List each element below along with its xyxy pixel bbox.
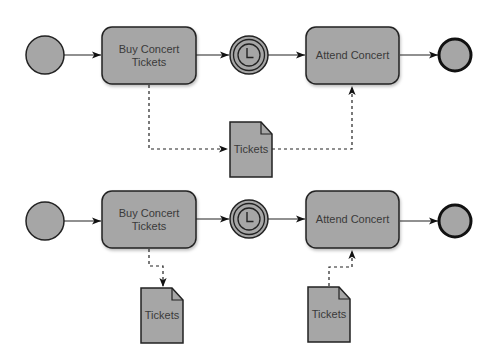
data-object-tickets-output[interactable] bbox=[141, 288, 183, 343]
start-event[interactable] bbox=[26, 202, 64, 240]
data-association-output bbox=[149, 85, 228, 149]
row-2 bbox=[26, 191, 471, 343]
data-association-input bbox=[329, 250, 352, 286]
task-buy-concert-tickets[interactable] bbox=[102, 191, 196, 248]
timer-intermediate-event[interactable] bbox=[230, 36, 268, 74]
end-event[interactable] bbox=[439, 39, 471, 71]
bpmn-diagram bbox=[0, 0, 496, 361]
data-object-tickets[interactable] bbox=[230, 122, 272, 177]
start-event[interactable] bbox=[26, 36, 64, 74]
data-association-output bbox=[149, 249, 163, 287]
task-attend-concert[interactable] bbox=[306, 27, 399, 84]
task-buy-concert-tickets[interactable] bbox=[102, 27, 196, 84]
data-association-input bbox=[272, 86, 352, 149]
row-1 bbox=[26, 27, 471, 177]
task-attend-concert[interactable] bbox=[306, 191, 399, 248]
timer-intermediate-event[interactable] bbox=[230, 200, 268, 238]
end-event[interactable] bbox=[439, 205, 471, 237]
data-object-tickets-input[interactable] bbox=[308, 287, 350, 342]
bpmn-diagram-canvas: Buy Concert Tickets Attend Concert Ticke… bbox=[0, 0, 496, 361]
